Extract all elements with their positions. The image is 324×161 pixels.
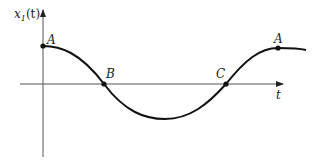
point-a-start — [40, 43, 45, 48]
x-axis-label: t — [276, 88, 281, 102]
label-a-end: A — [273, 32, 283, 46]
point-b — [101, 81, 106, 86]
y-axis-label: x1(t) — [14, 7, 40, 23]
label-a-start: A — [46, 33, 56, 47]
label-c: C — [216, 67, 225, 81]
oscillation-diagram: x1(t) t A B C A — [0, 0, 324, 161]
label-b: B — [105, 67, 115, 81]
point-a-end — [275, 45, 280, 50]
point-c — [223, 81, 228, 86]
x1-curve — [43, 46, 306, 119]
